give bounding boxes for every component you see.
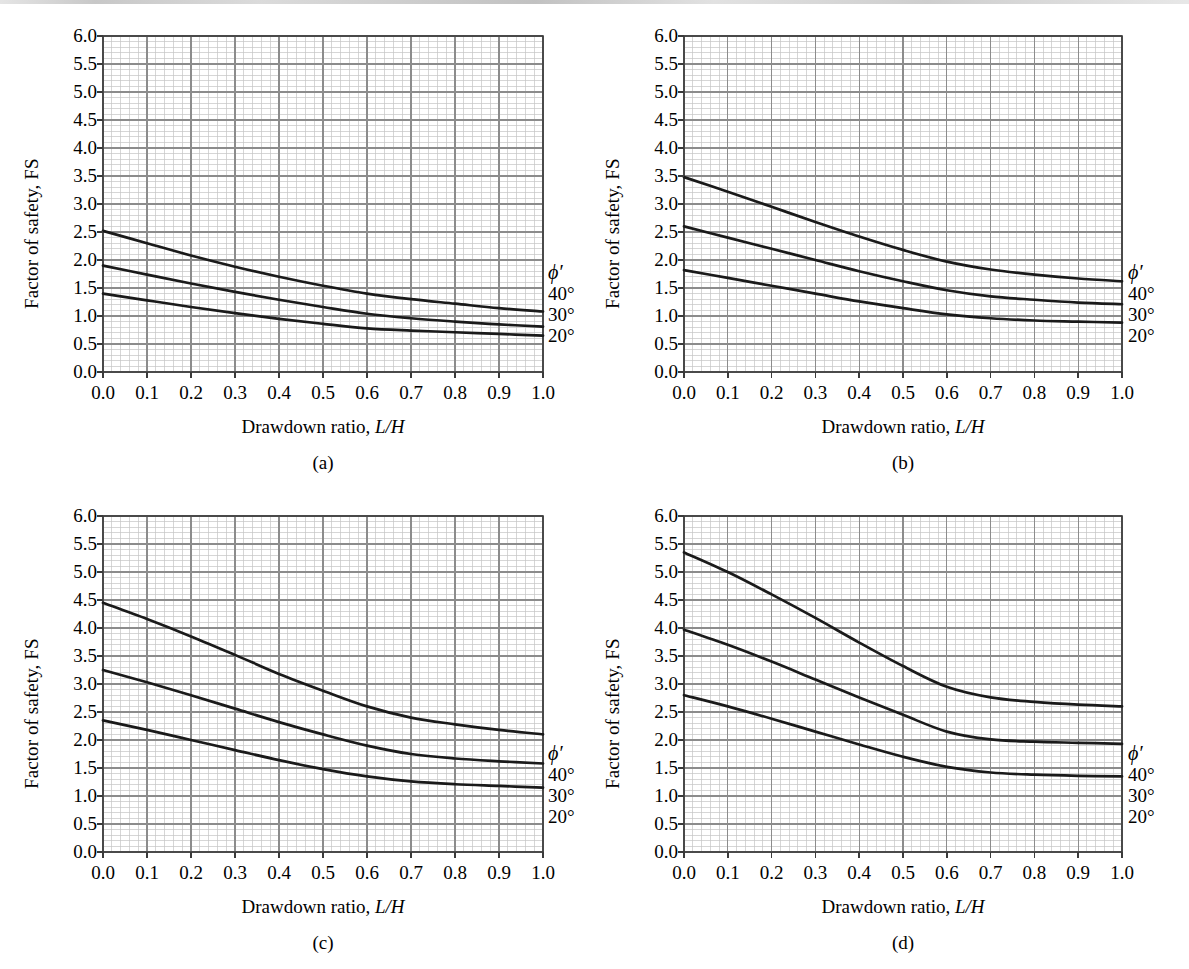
- x-tick-mark: [946, 372, 948, 378]
- y-tick-mark: [678, 231, 684, 233]
- y-tick-mark: [97, 119, 103, 121]
- y-tick-mark: [678, 627, 684, 629]
- y-tick-mark: [678, 91, 684, 93]
- x-tick-label: 0.4: [267, 382, 291, 404]
- y-tick-label: 5.5: [55, 53, 97, 75]
- y-tick-mark: [678, 343, 684, 345]
- y-tick-label: 3.0: [55, 673, 97, 695]
- y-tick-mark: [97, 627, 103, 629]
- y-tick-label: 4.0: [55, 137, 97, 159]
- x-tick-label: 0.0: [91, 382, 115, 404]
- y-tick-label: 0.0: [55, 361, 97, 383]
- y-tick-label: 5.0: [636, 81, 678, 103]
- y-tick-mark: [678, 795, 684, 797]
- y-tick-label: 0.0: [55, 841, 97, 863]
- y-tick-label: 6.0: [55, 25, 97, 47]
- x-tick-mark: [683, 852, 685, 858]
- y-tick-label: 5.0: [55, 561, 97, 583]
- y-tick-label: 3.5: [55, 165, 97, 187]
- x-tick-label: 0.3: [223, 382, 247, 404]
- panel-caption: (a): [103, 452, 543, 474]
- x-tick-mark: [454, 852, 456, 858]
- legend-entry: 20°: [1128, 807, 1155, 826]
- y-tick-label: 1.5: [55, 277, 97, 299]
- y-tick-mark: [678, 259, 684, 261]
- x-axis-label-symbol: L/H: [375, 416, 405, 437]
- y-tick-mark: [97, 683, 103, 685]
- x-tick-mark: [190, 372, 192, 378]
- legend-entry: 20°: [548, 326, 575, 345]
- y-tick-label: 2.0: [55, 729, 97, 751]
- x-tick-label: 0.5: [311, 382, 335, 404]
- x-tick-label: 1.0: [531, 382, 555, 404]
- x-tick-mark: [771, 852, 773, 858]
- chart-panel-d: 0.00.51.01.52.02.53.03.54.04.55.05.56.00…: [595, 485, 1189, 969]
- y-tick-mark: [678, 287, 684, 289]
- y-tick-mark: [97, 543, 103, 545]
- x-tick-mark: [1077, 852, 1079, 858]
- x-tick-mark: [1034, 852, 1036, 858]
- y-tick-label: 2.5: [636, 701, 678, 723]
- x-tick-mark: [815, 372, 817, 378]
- y-tick-label: 2.5: [55, 701, 97, 723]
- y-tick-label: 0.0: [636, 841, 678, 863]
- y-tick-label: 5.0: [55, 81, 97, 103]
- x-axis-label-symbol: L/H: [955, 416, 985, 437]
- y-tick-label: 0.5: [55, 333, 97, 355]
- y-tick-mark: [97, 63, 103, 65]
- x-tick-mark: [366, 852, 368, 858]
- x-tick-mark: [278, 372, 280, 378]
- x-tick-label: 0.8: [1023, 862, 1047, 884]
- y-tick-label: 3.0: [55, 193, 97, 215]
- x-tick-label: 0.4: [847, 862, 871, 884]
- x-tick-mark: [542, 852, 544, 858]
- x-tick-mark: [102, 852, 104, 858]
- y-tick-label: 0.5: [636, 813, 678, 835]
- y-tick-label: 2.5: [55, 221, 97, 243]
- legend-entry: 40°: [1128, 765, 1155, 784]
- legend: ϕ′40°30°20°: [548, 743, 575, 828]
- y-tick-label: 6.0: [636, 505, 678, 527]
- y-axis-label: Factor of safety, FS: [602, 158, 624, 309]
- y-tick-label: 1.0: [55, 785, 97, 807]
- y-tick-label: 0.5: [55, 813, 97, 835]
- y-tick-label: 3.0: [636, 673, 678, 695]
- x-tick-label: 0.5: [311, 862, 335, 884]
- x-tick-mark: [366, 372, 368, 378]
- y-tick-label: 2.0: [55, 249, 97, 271]
- x-tick-label: 0.1: [716, 382, 740, 404]
- legend-title: ϕ′: [548, 743, 575, 763]
- plot-canvas: [101, 34, 545, 374]
- y-tick-label: 1.5: [636, 757, 678, 779]
- x-tick-mark: [146, 852, 148, 858]
- x-tick-label: 0.3: [804, 862, 828, 884]
- y-tick-mark: [678, 823, 684, 825]
- y-tick-mark: [97, 599, 103, 601]
- x-tick-label: 0.3: [804, 382, 828, 404]
- y-tick-mark: [97, 175, 103, 177]
- chart-panel-c: 0.00.51.01.52.02.53.03.54.04.55.05.56.00…: [0, 485, 595, 969]
- y-tick-mark: [678, 543, 684, 545]
- x-tick-label: 1.0: [1110, 862, 1134, 884]
- y-tick-mark: [97, 767, 103, 769]
- x-tick-label: 0.4: [267, 862, 291, 884]
- y-tick-mark: [678, 739, 684, 741]
- x-tick-mark: [410, 372, 412, 378]
- y-tick-label: 0.5: [636, 333, 678, 355]
- legend-entry: 30°: [548, 786, 575, 805]
- x-tick-label: 0.3: [223, 862, 247, 884]
- legend-entry: 20°: [548, 807, 575, 826]
- y-tick-mark: [678, 315, 684, 317]
- y-axis-label: Factor of safety, FS: [21, 638, 43, 789]
- x-tick-mark: [410, 852, 412, 858]
- x-axis-label: Drawdown ratio, L/H: [103, 416, 543, 438]
- y-tick-label: 1.0: [636, 305, 678, 327]
- x-tick-mark: [1121, 852, 1123, 858]
- x-tick-mark: [858, 372, 860, 378]
- y-tick-mark: [678, 203, 684, 205]
- y-tick-label: 4.5: [55, 109, 97, 131]
- x-tick-label: 1.0: [1110, 382, 1134, 404]
- x-axis-label-symbol: L/H: [375, 896, 405, 917]
- x-tick-mark: [542, 372, 544, 378]
- x-tick-label: 0.8: [1023, 382, 1047, 404]
